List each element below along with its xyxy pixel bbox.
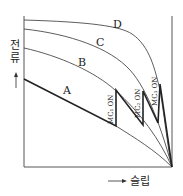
y-axis-label-char-1: 전	[10, 39, 20, 52]
mc2-on-label: MC₂ ON	[134, 89, 142, 118]
operating-path	[24, 79, 172, 167]
mc1-on-label: MC₁ ON	[107, 95, 115, 124]
curve-label-d: D	[113, 18, 122, 31]
y-axis-label-char-2: 류	[10, 52, 20, 65]
x-axis-label: 슬립	[130, 175, 150, 188]
curve-label-c: C	[96, 36, 104, 49]
curve-b	[24, 48, 172, 167]
curve-c	[24, 29, 172, 167]
x-arrow-head-icon	[122, 179, 127, 183]
curve-a-continuation	[116, 126, 172, 167]
mc3-on-label: MC₃ ON	[151, 77, 159, 106]
y-arrow-head-icon	[14, 72, 18, 77]
curve-label-b: B	[78, 56, 86, 69]
speed-current-diagram: D C B A MC₁ ON MC₂ ON MC₃ ON 전 류 슬립	[0, 0, 183, 196]
curve-label-a: A	[62, 84, 72, 97]
